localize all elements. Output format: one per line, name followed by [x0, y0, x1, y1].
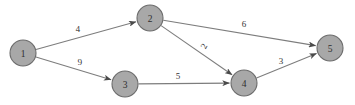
graph-node-5[interactable]: 5 — [317, 35, 343, 61]
node-label-4: 4 — [242, 79, 247, 89]
edge-weight-1-3: 9 — [78, 57, 83, 67]
graph-edge-3-to-4 — [138, 83, 229, 84]
graph-edge-2-to-5 — [163, 20, 315, 45]
edge-weight-1-2: 4 — [76, 24, 81, 34]
graph-canvas: 496253 12345 — [0, 0, 355, 105]
edge-weight-4-5: 3 — [279, 56, 284, 66]
node-label-5: 5 — [328, 44, 333, 54]
edge-weight-3-4: 5 — [176, 71, 181, 81]
graph-edge-2-to-4 — [161, 26, 232, 75]
graph-node-3[interactable]: 3 — [112, 71, 138, 97]
node-label-2: 2 — [148, 14, 153, 24]
graph-figure: 496253 12345 — [0, 0, 355, 105]
graph-node-1[interactable]: 1 — [10, 40, 36, 66]
graph-node-2[interactable]: 2 — [137, 5, 163, 31]
graph-node-4[interactable]: 4 — [231, 70, 257, 96]
edge-weights-layer: 496253 — [76, 19, 284, 81]
node-label-1: 1 — [21, 49, 26, 59]
edge-weight-2-4: 2 — [199, 42, 210, 51]
graph-edge-1-to-3 — [36, 57, 111, 80]
graph-edge-1-to-2 — [36, 22, 136, 50]
edge-weight-2-5: 6 — [242, 19, 247, 29]
node-label-3: 3 — [123, 80, 128, 90]
graph-edge-4-to-5 — [257, 53, 317, 77]
